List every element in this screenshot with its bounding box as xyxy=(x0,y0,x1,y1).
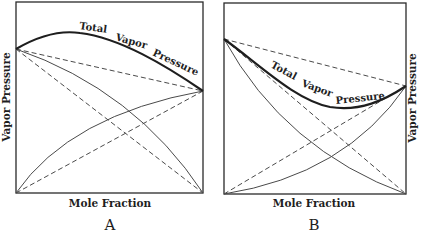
panel-b-x-axis-label: Mole Fraction xyxy=(273,197,356,209)
panel-a-letter: A xyxy=(104,216,116,234)
panel-a-ideal-partial-1-line xyxy=(16,49,203,193)
panel-a: Total Vapor Pressure Vapor Pressure Mole… xyxy=(0,2,203,234)
panel-b-curve-label-vapor: Vapor xyxy=(299,77,335,99)
panel-b-letter: B xyxy=(308,216,319,234)
panel-a-ideal-partial-2-line xyxy=(16,91,203,193)
panel-a-x-axis-label: Mole Fraction xyxy=(69,197,152,209)
panel-b: Total Vapor Pressure Vapor Pressure Mole… xyxy=(224,3,418,234)
panel-a-frame xyxy=(16,2,203,193)
vapor-pressure-diagram: Total Vapor Pressure Vapor Pressure Mole… xyxy=(0,0,423,236)
panel-b-y-axis-label: Vapor Pressure xyxy=(406,53,418,144)
panel-a-y-axis-label: Vapor Pressure xyxy=(0,52,12,143)
panel-b-ideal-partial-1-line xyxy=(224,39,406,194)
panel-b-curve-label-pressure: Pressure xyxy=(335,90,385,106)
